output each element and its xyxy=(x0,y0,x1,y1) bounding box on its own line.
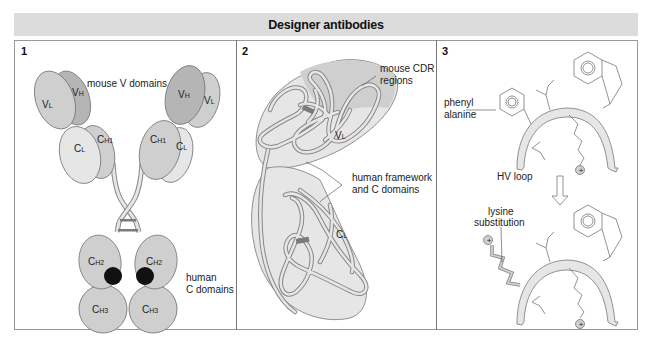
label-phenylalanine-2: alanine xyxy=(444,109,477,120)
label-mouse-cdr-2: regions xyxy=(380,75,413,86)
label-human-framework-1: human framework xyxy=(352,172,433,183)
carbohydrate-right xyxy=(136,267,154,285)
label-cl: CL xyxy=(336,229,347,240)
label-lysine-2: substitution xyxy=(474,217,525,228)
lysine-side-chain xyxy=(492,245,520,285)
plus-sign: + xyxy=(579,166,584,175)
label-human-c-domains-1: human xyxy=(186,272,217,283)
label-mouse-cdr-1: mouse CDR xyxy=(380,63,434,74)
tryptophan-ring xyxy=(574,52,622,108)
label-human-c-domains-2: C domains xyxy=(186,284,234,295)
hv-loop-before xyxy=(500,52,622,175)
plus-sign: + xyxy=(579,320,584,329)
label-human-framework-2: and C domains xyxy=(352,184,419,195)
down-arrow-icon xyxy=(552,176,568,205)
label-hv-loop: HV loop xyxy=(497,171,533,182)
hv-loop-ribbon xyxy=(517,260,618,326)
label-phenylalanine-1: phenyl xyxy=(444,97,473,108)
hinge-region xyxy=(113,163,142,232)
tryptophan-ring xyxy=(574,205,622,261)
label-lysine-1: lysine xyxy=(488,206,514,217)
disulfide-bond xyxy=(120,219,136,222)
phenylalanine-ring xyxy=(500,88,531,124)
carbohydrate-left xyxy=(104,267,122,285)
disulfide-bond xyxy=(118,229,138,232)
plus-sign: + xyxy=(487,236,492,245)
antibody-diagram xyxy=(27,61,226,340)
diagram-canvas: VL VH mouse V domains VH VL CL CH1 CH1 C… xyxy=(0,0,651,342)
label-mouse-v-domains: mouse V domains xyxy=(87,78,167,89)
hv-loop-ribbon xyxy=(517,108,618,172)
